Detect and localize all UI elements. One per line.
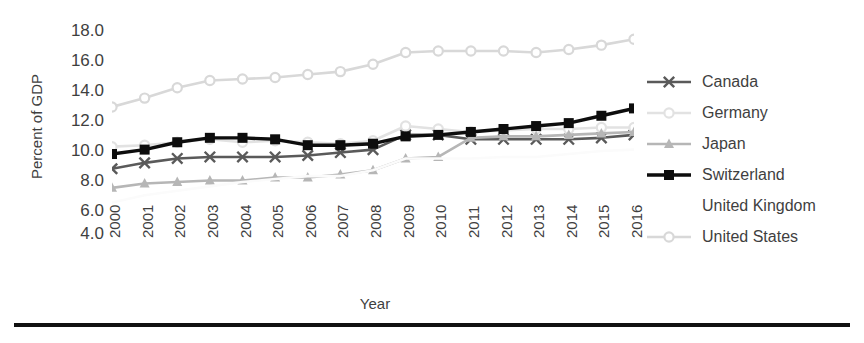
circle-marker-icon bbox=[466, 46, 475, 55]
y-tick-label: 10.0 bbox=[52, 142, 104, 159]
circle-marker-icon bbox=[646, 105, 692, 121]
x-tick-label: 2000 bbox=[106, 174, 123, 238]
legend-item-label: Japan bbox=[702, 135, 746, 153]
circle-marker-icon bbox=[664, 108, 673, 117]
y-tick-label: 6.0 bbox=[52, 202, 104, 219]
bottom-divider bbox=[14, 323, 850, 327]
y-tick-label: 16.0 bbox=[52, 52, 104, 69]
x-tick-label: 2008 bbox=[367, 174, 384, 238]
legend-item-united-states[interactable]: United States bbox=[646, 221, 861, 252]
square-marker-icon bbox=[205, 133, 215, 143]
y-tick-label: 14.0 bbox=[52, 82, 104, 99]
triangle-marker-icon bbox=[646, 136, 692, 152]
x-tick-label: 2001 bbox=[139, 174, 156, 238]
circle-marker-icon bbox=[646, 229, 692, 245]
circle-marker-icon bbox=[629, 35, 634, 44]
square-marker-icon bbox=[172, 137, 182, 147]
x-tick-label: 2007 bbox=[334, 174, 351, 238]
square-marker-icon bbox=[664, 170, 674, 180]
x-tick-label: 2010 bbox=[432, 174, 449, 238]
square-marker-icon bbox=[646, 167, 692, 183]
square-marker-icon bbox=[629, 103, 634, 113]
y-tick-label: 8.0 bbox=[52, 172, 104, 189]
circle-marker-icon bbox=[597, 41, 606, 50]
square-marker-icon bbox=[596, 111, 606, 121]
square-marker-icon bbox=[531, 121, 541, 131]
x-marker-icon bbox=[646, 74, 692, 90]
square-marker-icon bbox=[499, 124, 509, 134]
y-tick-label: 4.0 bbox=[52, 225, 104, 242]
circle-marker-icon bbox=[434, 46, 443, 55]
x-tick-label: 2012 bbox=[498, 174, 515, 238]
circle-marker-icon bbox=[532, 48, 541, 57]
circle-marker-icon bbox=[271, 73, 280, 82]
square-marker-icon bbox=[140, 145, 150, 155]
x-tick-label: 2004 bbox=[237, 174, 254, 238]
legend-item-switzerland[interactable]: Switzerland bbox=[646, 159, 861, 190]
circle-marker-icon bbox=[664, 232, 673, 241]
circle-marker-icon bbox=[205, 76, 214, 85]
circle-marker-icon bbox=[336, 67, 345, 76]
square-marker-icon bbox=[433, 130, 443, 140]
legend-item-label: Switzerland bbox=[702, 166, 785, 184]
legend-item-canada[interactable]: Canada bbox=[646, 66, 861, 97]
x-tick-label: 2013 bbox=[530, 174, 547, 238]
y-tick-label: 18.0 bbox=[52, 22, 104, 39]
legend-item-japan[interactable]: Japan bbox=[646, 128, 861, 159]
chart-figure: Percent of GDP 18.016.014.012.010.08.06.… bbox=[0, 0, 864, 343]
x-tick-label: 2005 bbox=[269, 174, 286, 238]
y-tick-label: 12.0 bbox=[52, 112, 104, 129]
square-marker-icon bbox=[401, 131, 411, 141]
circle-marker-icon bbox=[173, 83, 182, 92]
circle-marker-icon bbox=[112, 102, 117, 111]
circle-marker-icon bbox=[499, 46, 508, 55]
x-tick-label: 2006 bbox=[302, 174, 319, 238]
square-marker-icon bbox=[466, 127, 476, 137]
x-tick-label: 2016 bbox=[628, 174, 645, 238]
legend-item-label: United States bbox=[702, 228, 798, 246]
x-axis-title: Year bbox=[0, 295, 750, 312]
circle-marker-icon bbox=[140, 94, 149, 103]
square-marker-icon bbox=[303, 140, 313, 150]
x-tick-label: 2009 bbox=[400, 174, 417, 238]
legend-item-germany[interactable]: Germany bbox=[646, 97, 861, 128]
circle-marker-icon bbox=[401, 48, 410, 57]
square-marker-icon bbox=[238, 133, 248, 143]
circle-marker-icon bbox=[238, 74, 247, 83]
square-marker-icon bbox=[270, 134, 280, 144]
series-united-states bbox=[112, 35, 634, 112]
circle-marker-icon bbox=[368, 60, 377, 69]
x-tick-label: 2011 bbox=[465, 174, 482, 238]
circle-marker-icon bbox=[401, 121, 410, 130]
circle-marker-icon bbox=[303, 70, 312, 79]
legend-item-united-kingdom[interactable]: United Kingdom bbox=[646, 190, 861, 221]
legend-item-label: Germany bbox=[702, 104, 768, 122]
blank-marker-icon bbox=[646, 198, 692, 214]
x-tick-label: 2014 bbox=[563, 174, 580, 238]
y-axis-title: Percent of GDP bbox=[28, 47, 45, 207]
legend-item-label: Canada bbox=[702, 73, 758, 91]
series-line bbox=[112, 39, 634, 107]
square-marker-icon bbox=[564, 118, 574, 128]
square-marker-icon bbox=[368, 139, 378, 149]
legend-item-label: United Kingdom bbox=[702, 197, 816, 215]
square-marker-icon bbox=[335, 140, 345, 150]
x-tick-label: 2003 bbox=[204, 174, 221, 238]
square-marker-icon bbox=[112, 149, 117, 159]
x-tick-label: 2015 bbox=[595, 174, 612, 238]
x-tick-label: 2002 bbox=[171, 174, 188, 238]
circle-marker-icon bbox=[564, 45, 573, 54]
chart-legend: CanadaGermanyJapanSwitzerlandUnited King… bbox=[646, 66, 861, 252]
